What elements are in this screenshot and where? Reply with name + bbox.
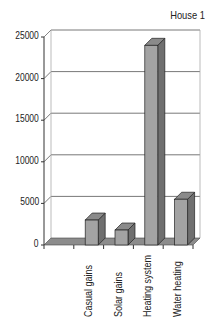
gridline-side [44, 113, 51, 120]
bar-side [158, 38, 165, 245]
y-tick-label: 10000 [15, 155, 39, 166]
wall-top-side [44, 30, 51, 37]
y-tick-label: 0 [34, 238, 39, 249]
y-tick-label: 15000 [15, 113, 39, 124]
gridline-side [44, 72, 51, 79]
chart-title: House 1 [170, 9, 205, 21]
gridline-side [44, 155, 51, 162]
x-category-label: Casual gains [83, 265, 94, 317]
y-tick-label: 25000 [15, 30, 39, 41]
y-tick-label: 20000 [15, 72, 39, 83]
bar-casual-gains [85, 220, 98, 245]
chart: House 1 0500010000150002000025000 Casual… [0, 0, 211, 331]
bar-solar-gains [115, 230, 128, 245]
bar-side [188, 192, 195, 245]
x-category-label: Solar gains [113, 272, 124, 317]
x-category-label: Heating system [142, 255, 153, 317]
x-category-label: Water heating [172, 261, 183, 317]
gridline-side [44, 196, 51, 203]
bar-water-heating [175, 199, 188, 245]
y-tick-label: 5000 [20, 196, 39, 207]
bar-heating-system [145, 45, 158, 245]
